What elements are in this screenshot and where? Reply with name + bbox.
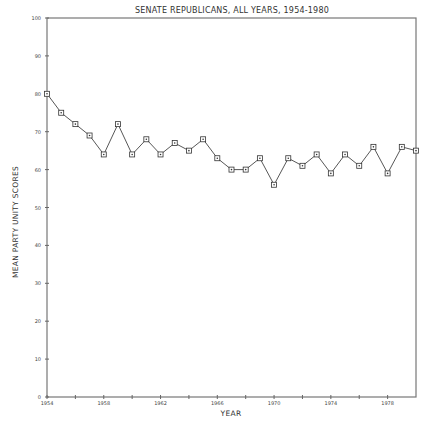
x-tick-label: 1966 [211, 400, 224, 406]
x-tick-label: 1954 [41, 400, 54, 406]
y-axis: 0102030405060708090100 [31, 15, 49, 400]
y-tick-label: 70 [35, 129, 41, 135]
marker-center-dot [160, 154, 162, 156]
y-tick-label: 30 [35, 280, 41, 286]
marker-center-dot [46, 93, 48, 95]
marker-center-dot [245, 169, 247, 171]
marker-center-dot [273, 184, 275, 186]
marker-center-dot [117, 123, 119, 125]
y-tick-label: 60 [35, 167, 41, 173]
marker-center-dot [75, 123, 77, 125]
line-chart: SENATE REPUBLICANS, ALL YEARS, 1954-1980… [0, 0, 427, 426]
marker-center-dot [358, 165, 360, 167]
y-tick-label: 80 [35, 91, 41, 97]
x-tick-label: 1974 [324, 400, 337, 406]
marker-center-dot [146, 138, 148, 140]
y-tick-label: 100 [31, 15, 41, 21]
marker-center-dot [387, 173, 389, 175]
marker-center-dot [174, 142, 176, 144]
y-tick-label: 40 [35, 242, 41, 248]
marker-center-dot [330, 173, 332, 175]
chart-title: SENATE REPUBLICANS, ALL YEARS, 1954-1980 [135, 6, 329, 15]
marker-center-dot [217, 157, 219, 159]
marker-center-dot [103, 154, 105, 156]
y-tick-label: 90 [35, 53, 41, 59]
marker-center-dot [60, 112, 62, 114]
marker-center-dot [401, 146, 403, 148]
marker-center-dot [188, 150, 190, 152]
y-tick-label: 50 [35, 205, 41, 211]
marker-center-dot [231, 169, 233, 171]
x-axis-label: YEAR [220, 409, 242, 418]
marker-center-dot [287, 157, 289, 159]
marker-center-dot [302, 165, 304, 167]
marker-center-dot [259, 157, 261, 159]
x-tick-label: 1978 [381, 400, 394, 406]
y-tick-label: 10 [35, 356, 41, 362]
marker-center-dot [316, 154, 318, 156]
marker-center-dot [202, 138, 204, 140]
marker-center-dot [89, 135, 91, 137]
plot-frame [47, 18, 416, 397]
marker-center-dot [415, 150, 417, 152]
x-tick-label: 1962 [154, 400, 167, 406]
x-tick-label: 1958 [97, 400, 110, 406]
data-markers [45, 91, 419, 187]
marker-center-dot [131, 154, 133, 156]
x-tick-label: 1970 [268, 400, 281, 406]
marker-center-dot [373, 146, 375, 148]
marker-center-dot [344, 154, 346, 156]
y-tick-label: 20 [35, 318, 41, 324]
y-axis-label: MEAN PARTY UNITY SCORES [11, 166, 20, 278]
